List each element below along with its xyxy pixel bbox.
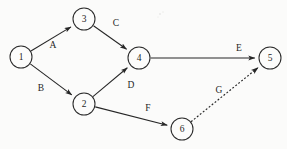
edge-label-b: B [38,83,44,93]
scan-artifacts [158,12,164,18]
edge-label-g: G [216,85,223,95]
edge-label-c: C [113,18,119,28]
edge-label-f: F [145,103,150,113]
edge-label-a: A [50,40,57,50]
node-label-6: 6 [180,124,185,134]
edge-g [191,68,258,122]
node-2[interactable]: 2 [73,93,95,115]
edge-layer [30,26,258,126]
node-5[interactable]: 5 [259,47,281,69]
edge-f [95,107,167,125]
node-4[interactable]: 4 [128,47,150,69]
node-label-4: 4 [137,53,142,63]
node-1[interactable]: 1 [10,46,32,68]
node-3[interactable]: 3 [73,8,95,30]
edge-c [93,26,126,49]
edge-b [30,64,72,95]
edge-label-d: D [128,80,135,90]
node-label-1: 1 [19,52,24,62]
edge-label-e: E [236,43,242,53]
diagram-canvas: ABCDEFG 132465 [0,0,287,149]
node-label-5: 5 [268,53,273,63]
node-label-2: 2 [82,99,87,109]
node-label-3: 3 [82,14,87,24]
node-6[interactable]: 6 [171,118,193,140]
edge-d [93,68,127,97]
activity-network-diagram: ABCDEFG 132465 [0,0,287,149]
